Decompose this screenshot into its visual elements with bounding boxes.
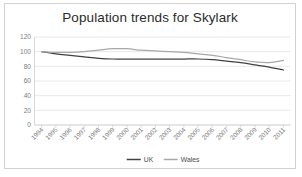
x-axis-tick-label: 2009 (243, 126, 258, 141)
chart-plot-area: 020406080100120 199419951996199719981999… (5, 4, 297, 170)
x-axis-tick-label: 2006 (200, 126, 215, 141)
x-axis-tick-label: 2008 (229, 126, 244, 141)
x-axis-tick-labels: 1994199519961997199819992000200120022003… (30, 126, 287, 141)
x-axis-tick-label: 1995 (44, 126, 59, 141)
y-axis-tick-labels: 020406080100120 (20, 33, 31, 128)
x-axis-tick-label: 2007 (214, 126, 229, 141)
x-axis-tick-label: 1998 (86, 126, 101, 141)
chart-container: Population trends for Skylark 0204060801… (4, 3, 296, 169)
x-axis-tick-label: 2004 (172, 126, 187, 141)
x-axis-tick-label: 2000 (115, 126, 130, 141)
y-axis-tick-label: 0 (27, 121, 31, 128)
x-axis-tick-label: 2001 (129, 126, 144, 141)
x-axis-tick-label: 1997 (72, 126, 87, 141)
x-axis-tick-label: 2010 (257, 126, 272, 141)
chart-legend: UKWales (127, 156, 200, 163)
x-axis-tick-label: 1994 (30, 126, 45, 141)
x-axis-tick-label: 2003 (158, 126, 173, 141)
y-axis-tick-label: 20 (24, 107, 32, 114)
y-axis-tick-label: 60 (24, 77, 32, 84)
y-axis-tick-label: 120 (20, 33, 31, 40)
y-axis-tick-label: 40 (24, 92, 32, 99)
x-axis (35, 37, 291, 128)
x-axis-tick-label: 2005 (186, 126, 201, 141)
legend-label-uk: UK (144, 156, 154, 163)
x-axis-tick-label: 1999 (101, 126, 116, 141)
legend-label-wales: Wales (181, 156, 200, 163)
gridlines (35, 37, 291, 125)
x-axis-tick-label: 1996 (58, 126, 73, 141)
x-axis-tick-label: 2011 (272, 126, 287, 141)
x-axis-tick-label: 2002 (143, 126, 158, 141)
y-axis-tick-label: 80 (24, 63, 32, 70)
y-axis-tick-label: 100 (20, 48, 31, 55)
